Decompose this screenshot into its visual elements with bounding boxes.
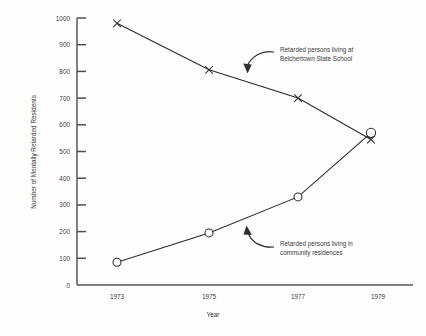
series-institution [113, 20, 375, 144]
y-tick-label-1000: 1000 [56, 15, 71, 22]
y-tick-label-800: 800 [59, 68, 70, 75]
institution-annotation-line2: Belchertown State School [280, 55, 352, 62]
y-tick-label-600: 600 [59, 121, 70, 128]
line-chart-plot: 1000 900 800 700 600 500 400 300 200 100… [0, 0, 426, 336]
y-tick-label-700: 700 [59, 95, 70, 102]
community-annotation-arrow-head-icon [243, 226, 252, 235]
x-axis-title: Year [207, 311, 221, 318]
institution-annotation-arrow-line [247, 52, 274, 66]
institution-annotation: Retarded persons living at Belchertown S… [243, 46, 353, 74]
community-annotation-line2: community residences [280, 249, 343, 257]
chart-figure: 1000 900 800 700 600 500 400 300 200 100… [0, 0, 426, 336]
y-tick-label-0: 0 [66, 282, 70, 289]
y-axis-title: Number of Mentally Retarded Residents [30, 95, 38, 209]
data-point-1975-institution [205, 66, 213, 74]
x-tick-label-1973: 1973 [110, 293, 125, 300]
institution-annotation-arrow-head-icon [243, 64, 251, 74]
data-point-1977-community [294, 193, 302, 201]
data-point-1977-institution [294, 94, 302, 102]
data-point-1973-institution [113, 20, 121, 28]
y-tick-label-500: 500 [59, 148, 70, 155]
data-point-1973-community [113, 258, 121, 266]
institution-annotation-line1: Retarded persons living at [280, 46, 353, 54]
y-tick-label-400: 400 [59, 175, 70, 182]
data-point-1975-community [205, 229, 213, 237]
y-tick-label-200: 200 [59, 228, 70, 235]
community-annotation-arrow-line [248, 233, 274, 247]
x-tick-label-1977: 1977 [291, 293, 306, 300]
x-tick-label-1979: 1979 [371, 293, 386, 300]
community-annotation-line1: Retarded persons living in [280, 240, 353, 248]
series-institution-line [117, 23, 371, 139]
y-tick-label-300: 300 [59, 201, 70, 208]
y-axis-ticks [77, 18, 86, 258]
y-axis-tick-labels: 1000 900 800 700 600 500 400 300 200 100… [56, 15, 71, 289]
community-annotation: Retarded persons living in community res… [243, 226, 353, 258]
y-tick-label-100: 100 [59, 255, 70, 262]
y-tick-label-900: 900 [59, 41, 70, 48]
x-axis-tick-labels: 1973 1975 1977 1979 [110, 293, 386, 300]
x-tick-label-1975: 1975 [202, 293, 217, 300]
data-point-1979-community [366, 128, 375, 137]
